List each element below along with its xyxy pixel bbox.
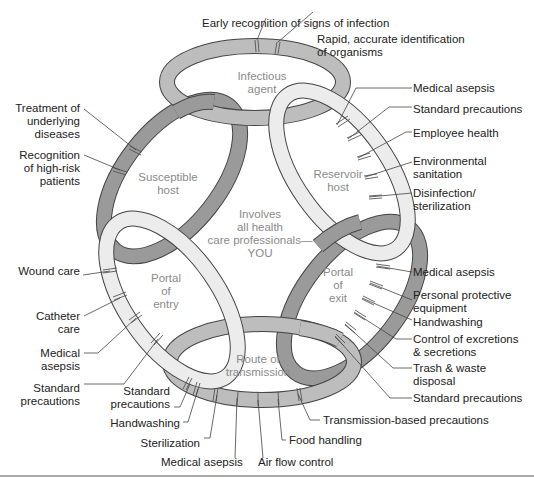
text-line: Portal [126, 272, 206, 285]
label-transmission-based-precautions: Transmission-based precautions [323, 414, 489, 427]
text-line: Catheter [0, 310, 80, 323]
infectious-agent-label: Infectious agent [222, 70, 302, 96]
text-line: precautions [0, 395, 80, 408]
susceptible-host-label: Susceptible host [128, 171, 208, 197]
text-line: Trash & waste [413, 362, 486, 375]
text-line: of [298, 279, 378, 292]
text-line: transmission [208, 366, 308, 379]
text-line: care professionals— [200, 234, 320, 247]
text-line: Personal protective [413, 289, 511, 302]
reservoir-host-label: Reservoir host [298, 168, 378, 194]
label-sterilization: Sterilization [130, 437, 200, 450]
portal-of-exit-label: Portal of exit [298, 266, 378, 305]
text-line: care [0, 323, 80, 336]
label-reservoir-standard-precautions: Standard precautions [413, 103, 522, 116]
label-environmental-sanitation: Environmental sanitation [413, 155, 487, 181]
label-exit-medical-asepsis: Medical asepsis [413, 266, 495, 279]
text-line: Rapid, accurate identification [317, 33, 465, 46]
text-line: Medical [0, 347, 80, 360]
text-line: disposal [413, 375, 486, 388]
text-line: Involves [200, 208, 320, 221]
text-line: sterilization [413, 200, 476, 213]
text-line: host [128, 184, 208, 197]
text-line: sanitation [413, 168, 487, 181]
label-air-flow-control: Air flow control [258, 456, 333, 469]
label-control-excretions: Control of excretions & secretions [413, 333, 518, 359]
text-line: asepsis [0, 360, 80, 373]
text-line: precautions [100, 398, 170, 411]
text-line: Environmental [413, 155, 487, 168]
text-line: of [126, 285, 206, 298]
text-line: of organisms [317, 46, 465, 59]
label-treatment-underlying: Treatment of underlying diseases [0, 102, 80, 141]
text-line: Susceptible [128, 171, 208, 184]
label-disinfection-sterilization: Disinfection/ sterilization [413, 187, 476, 213]
label-wound-care: Wound care [0, 265, 80, 278]
label-ppe: Personal protective equipment [413, 289, 511, 315]
label-trash-waste: Trash & waste disposal [413, 362, 486, 388]
text-line: host [298, 181, 378, 194]
text-line: entry [126, 298, 206, 311]
text-line: Control of excretions [413, 333, 518, 346]
text-line: agent [222, 83, 302, 96]
label-entry-medical-asepsis: Medical asepsis [0, 347, 80, 373]
text-line: Reservoir [298, 168, 378, 181]
text-line: patients [0, 175, 80, 188]
text-line: Infectious [222, 70, 302, 83]
text-line: of high-risk [0, 162, 80, 175]
text-line: all health [200, 221, 320, 234]
label-catheter-care: Catheter care [0, 310, 80, 336]
label-employee-health: Employee health [413, 127, 499, 140]
label-reservoir-medical-asepsis: Medical asepsis [413, 82, 495, 95]
label-food-handling: Food handling [289, 434, 362, 447]
label-exit-standard-precautions: Standard precautions [413, 392, 522, 405]
text-line: Recognition [0, 149, 80, 162]
text-line: Treatment of [0, 102, 80, 115]
label-recognition-high-risk: Recognition of high-risk patients [0, 149, 80, 188]
text-line: equipment [413, 302, 511, 315]
center-label: Involves all health care professionals— … [200, 208, 320, 260]
label-route-handwashing: Handwashing [100, 417, 180, 430]
text-line: Portal [298, 266, 378, 279]
text-line: Disinfection/ [413, 187, 476, 200]
text-line: diseases [0, 128, 80, 141]
text-line: exit [298, 292, 378, 305]
text-line: Route of [208, 353, 308, 366]
label-route-standard-precautions: Standard precautions [100, 385, 170, 411]
label-exit-handwashing: Handwashing [413, 316, 483, 329]
label-rapid-identification: Rapid, accurate identification of organi… [317, 33, 465, 59]
text-line: Standard [0, 382, 80, 395]
text-line: Standard [100, 385, 170, 398]
portal-of-entry-label: Portal of entry [126, 272, 206, 311]
text-line: & secretions [413, 346, 518, 359]
label-entry-standard-precautions: Standard precautions [0, 382, 80, 408]
route-of-transmission-label: Route of transmission [208, 353, 308, 379]
text-line: underlying [0, 115, 80, 128]
label-route-medical-asepsis: Medical asepsis [161, 456, 243, 469]
label-early-recognition: Early recognition of signs of infection [202, 17, 389, 30]
text-line: YOU [200, 247, 320, 260]
